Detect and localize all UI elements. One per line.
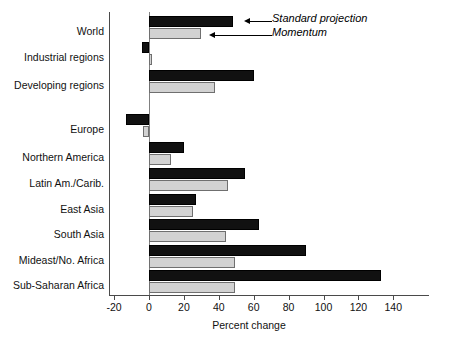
annotation-momentum-arrow xyxy=(209,32,215,38)
x-axis-tick-label: 140 xyxy=(373,301,413,313)
category-label: Sub-Saharan Africa xyxy=(13,279,104,291)
chart-figure: WorldIndustrial regionsDeveloping region… xyxy=(0,0,452,349)
bar-standard-projection xyxy=(126,114,149,125)
x-axis-title: Percent change xyxy=(189,319,309,331)
bar-momentum xyxy=(149,257,235,268)
bar-standard-projection xyxy=(149,16,233,27)
annotation-momentum-leader xyxy=(215,35,272,36)
bar-standard-projection xyxy=(149,270,381,281)
x-axis-tick xyxy=(254,295,255,300)
category-label: Northern America xyxy=(22,151,104,163)
bar-momentum xyxy=(149,28,201,39)
bar-momentum xyxy=(149,206,193,217)
annotation-momentum-label: Momentum xyxy=(272,26,327,38)
bar-standard-projection xyxy=(149,70,254,81)
x-axis-tick xyxy=(289,295,290,300)
x-axis-tick xyxy=(219,295,220,300)
x-axis-tick xyxy=(324,295,325,300)
x-axis-line xyxy=(109,295,429,296)
bar-standard-projection xyxy=(149,219,259,230)
category-label: Mideast/No. Africa xyxy=(19,254,104,266)
category-label: South Asia xyxy=(54,228,104,240)
annotation-standard-projection-arrow xyxy=(244,18,250,24)
x-axis-tick xyxy=(358,295,359,300)
x-axis-tick xyxy=(114,295,115,300)
x-axis-tick xyxy=(393,295,394,300)
bar-momentum xyxy=(143,126,149,137)
annotation-standard-projection-leader xyxy=(250,21,272,22)
bar-standard-projection xyxy=(142,42,149,53)
x-axis-tick xyxy=(149,295,150,300)
category-label: Industrial regions xyxy=(24,51,104,63)
category-label: Latin Am./Carib. xyxy=(29,177,104,189)
annotation-standard-projection-label: Standard projection xyxy=(272,12,367,24)
category-label: World xyxy=(77,25,104,37)
bar-standard-projection xyxy=(149,168,245,179)
y-axis-line xyxy=(109,12,110,295)
x-axis-tick xyxy=(184,295,185,300)
bar-standard-projection xyxy=(149,142,184,153)
category-axis-labels: WorldIndustrial regionsDeveloping region… xyxy=(0,0,104,349)
category-label: Europe xyxy=(70,123,104,135)
bar-momentum xyxy=(149,180,228,191)
bar-standard-projection xyxy=(149,245,306,256)
bar-momentum xyxy=(149,54,152,65)
bar-momentum xyxy=(149,82,215,93)
bar-momentum xyxy=(149,154,171,165)
category-label: East Asia xyxy=(60,203,104,215)
bar-momentum xyxy=(149,231,226,242)
bar-standard-projection xyxy=(149,194,196,205)
category-label: Developing regions xyxy=(14,79,104,91)
bar-momentum xyxy=(149,282,235,293)
